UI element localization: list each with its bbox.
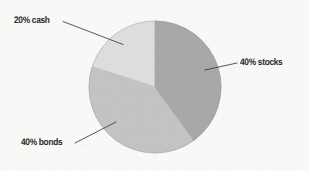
pie-label-cash: 20% cash (14, 15, 50, 26)
pie-slice-group (89, 21, 221, 153)
pie-chart-figure: 20% cash 40% stocks 40% bonds (0, 0, 309, 171)
pie-label-bonds: 40% bonds (21, 137, 62, 148)
leader-line-cash (63, 22, 123, 45)
pie-label-stocks: 40% stocks (240, 57, 282, 68)
